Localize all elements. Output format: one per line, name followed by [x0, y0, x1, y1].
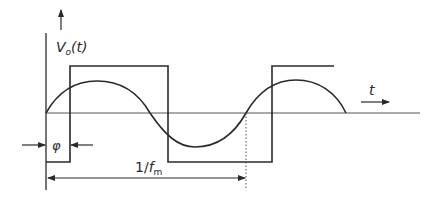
time-label: t — [369, 82, 375, 98]
waveform-diagram: Vo(t) t φ 1/fm — [0, 0, 439, 200]
phase-label: φ — [52, 138, 61, 153]
y-axis-label: Vo(t) — [56, 39, 88, 57]
period-label: 1/fm — [135, 159, 162, 177]
period-arrow-left-head — [47, 175, 55, 181]
